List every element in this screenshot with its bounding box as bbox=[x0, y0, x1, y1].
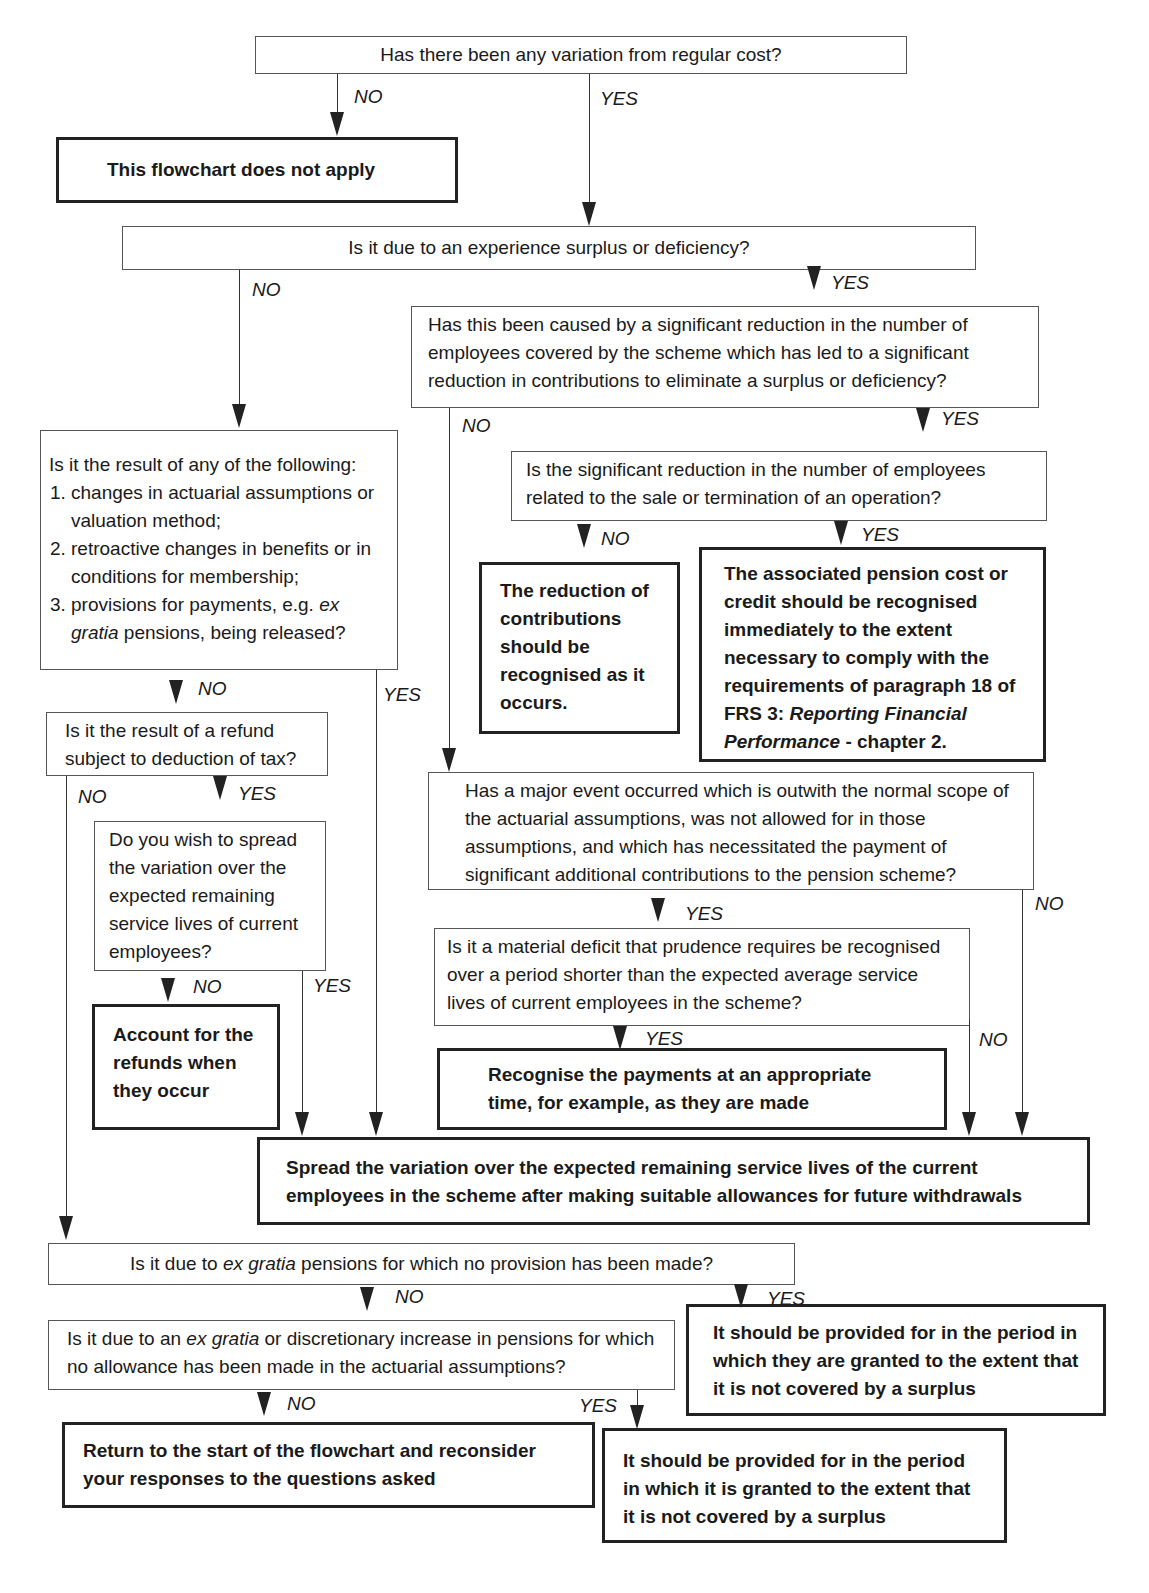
q-result-of-following: Is it the result of any of the following… bbox=[40, 430, 398, 670]
label-yes: YES bbox=[600, 88, 638, 110]
label-yes: YES bbox=[831, 272, 869, 294]
label-yes: YES bbox=[861, 524, 899, 546]
text: pensions for which no provision has been… bbox=[296, 1253, 713, 1274]
arrow-down-icon bbox=[232, 404, 246, 428]
label-no: NO bbox=[287, 1393, 316, 1415]
end-recognise-payments: Recognise the payments at an appropriate… bbox=[437, 1048, 947, 1130]
label-yes: YES bbox=[383, 684, 421, 706]
text-italic: ex gratia bbox=[186, 1328, 259, 1349]
end-return: Return to the start of the flowchart and… bbox=[62, 1422, 595, 1508]
arrow-down-icon bbox=[916, 408, 930, 432]
label-no: NO bbox=[198, 678, 227, 700]
connector bbox=[66, 776, 67, 1216]
arrow-down-icon bbox=[1015, 1112, 1029, 1136]
label-yes: YES bbox=[238, 783, 276, 805]
arrow-down-icon bbox=[582, 202, 596, 226]
q-major-event: Has a major event occurred which is outw… bbox=[428, 772, 1034, 890]
arrow-down-icon bbox=[257, 1392, 271, 1416]
q-material-deficit: Is it a material deficit that prudence r… bbox=[434, 928, 970, 1026]
q5-item-1: changes in actuarial assumptions or valu… bbox=[71, 479, 389, 535]
arrow-down-icon bbox=[330, 112, 344, 136]
arrow-down-icon bbox=[962, 1112, 976, 1136]
connector bbox=[239, 270, 240, 420]
arrow-down-icon bbox=[59, 1216, 73, 1240]
text: Is it due to an bbox=[67, 1328, 186, 1349]
q-variation: Has there been any variation from regula… bbox=[255, 36, 907, 74]
end-reduction: The reduction of contributions should be… bbox=[479, 562, 680, 734]
end-refunds: Account for the refunds when they occur bbox=[92, 1004, 280, 1130]
arrow-down-icon bbox=[651, 898, 665, 922]
q-significant-reduction: Has this been caused by a significant re… bbox=[411, 306, 1039, 408]
label-yes: YES bbox=[313, 975, 351, 997]
arrow-down-icon bbox=[734, 1284, 748, 1308]
text: - chapter 2. bbox=[840, 731, 947, 752]
connector bbox=[449, 408, 450, 763]
q5-item-2: retroactive changes in benefits or in co… bbox=[71, 535, 389, 591]
q-spread-wish: Do you wish to spread the variation over… bbox=[94, 821, 326, 971]
arrow-down-icon bbox=[295, 1112, 309, 1136]
arrow-down-icon bbox=[169, 680, 183, 704]
label-no: NO bbox=[601, 528, 630, 550]
connector bbox=[1022, 890, 1023, 1115]
end-provided-it: It should be provided for in the period … bbox=[602, 1428, 1007, 1543]
label-yes: YES bbox=[579, 1395, 617, 1417]
end-provided-they: It should be provided for in the period … bbox=[686, 1304, 1106, 1416]
label-no: NO bbox=[354, 86, 383, 108]
label-no: NO bbox=[979, 1029, 1008, 1051]
arrow-down-icon bbox=[161, 978, 175, 1002]
arrow-down-icon bbox=[442, 748, 456, 772]
label-yes: YES bbox=[645, 1028, 683, 1050]
text-italic: ex gratia bbox=[223, 1253, 296, 1274]
end-not-apply: This flowchart does not apply bbox=[56, 137, 458, 203]
connector bbox=[376, 670, 377, 1115]
label-no: NO bbox=[1035, 893, 1064, 915]
text: pensions, being released? bbox=[119, 622, 346, 643]
label-yes: YES bbox=[685, 903, 723, 925]
connector bbox=[302, 971, 303, 1115]
text: The associated pension cost or credit sh… bbox=[724, 563, 1015, 724]
q-sale-termination: Is the significant reduction in the numb… bbox=[511, 451, 1047, 521]
label-no: NO bbox=[78, 786, 107, 808]
text: Is it due to bbox=[130, 1253, 223, 1274]
arrow-down-icon bbox=[613, 1026, 627, 1050]
label-no: NO bbox=[193, 976, 222, 998]
q-experience: Is it due to an experience surplus or de… bbox=[122, 226, 976, 270]
label-no: NO bbox=[395, 1286, 424, 1308]
label-yes: YES bbox=[941, 408, 979, 430]
label-yes: YES bbox=[767, 1288, 805, 1310]
arrow-down-icon bbox=[369, 1112, 383, 1136]
arrow-down-icon bbox=[360, 1287, 374, 1311]
q5-item-3: provisions for payments, e.g. ex gratia … bbox=[71, 591, 389, 647]
text: provisions for payments, e.g. bbox=[71, 594, 319, 615]
arrow-down-icon bbox=[834, 521, 848, 545]
q-discretionary-increase: Is it due to an ex gratia or discretiona… bbox=[48, 1320, 675, 1390]
q-ex-gratia-no-provision: Is it due to ex gratia pensions for whic… bbox=[48, 1243, 795, 1285]
connector bbox=[589, 74, 590, 214]
label-no: NO bbox=[462, 415, 491, 437]
q-refund: Is it the result of a refund subject to … bbox=[46, 712, 328, 776]
q5-intro: Is it the result of any of the following… bbox=[49, 451, 389, 479]
arrow-down-icon bbox=[630, 1405, 644, 1429]
arrow-down-icon bbox=[577, 524, 591, 548]
arrow-down-icon bbox=[807, 266, 821, 290]
end-associated-cost: The associated pension cost or credit sh… bbox=[699, 547, 1046, 762]
label-no: NO bbox=[252, 279, 281, 301]
connector bbox=[969, 1020, 970, 1115]
arrow-down-icon bbox=[213, 776, 227, 800]
end-spread: Spread the variation over the expected r… bbox=[257, 1137, 1090, 1225]
